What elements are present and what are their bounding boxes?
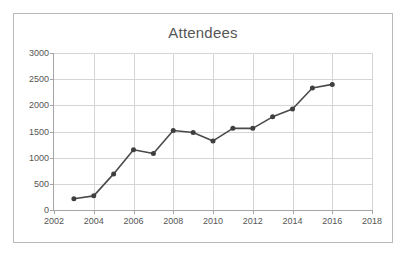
x-axis-tick-mark: [94, 210, 95, 214]
x-axis-tick-mark: [332, 210, 333, 214]
x-axis-tick-mark: [253, 210, 254, 214]
x-axis-tick-label: 2014: [282, 216, 302, 226]
x-axis-tick-mark: [173, 210, 174, 214]
data-point-marker: [250, 126, 255, 131]
data-point-marker: [310, 86, 315, 91]
x-axis-tick-mark: [54, 210, 55, 214]
data-point-marker: [171, 128, 176, 133]
data-point-marker: [211, 138, 216, 143]
y-axis-tick-label: 1000: [29, 153, 49, 163]
x-axis-tick-mark: [372, 210, 373, 214]
series-line: [74, 84, 332, 198]
x-axis-tick-mark: [293, 210, 294, 214]
x-axis-tick-label: 2006: [123, 216, 143, 226]
y-axis-tick-label: 3000: [29, 48, 49, 58]
data-point-marker: [131, 147, 136, 152]
chart-container: Attendees 050010001500200025003000 20022…: [13, 13, 393, 243]
data-series-attendees: [54, 53, 372, 210]
x-axis-tick-label: 2002: [44, 216, 64, 226]
x-axis-tick-label: 2010: [203, 216, 223, 226]
data-point-marker: [151, 151, 156, 156]
x-axis-tick-label: 2012: [243, 216, 263, 226]
chart-title: Attendees: [14, 24, 392, 41]
x-axis-tick-mark: [134, 210, 135, 214]
data-point-marker: [91, 193, 96, 198]
data-point-marker: [270, 114, 275, 119]
x-axis-tick-label: 2016: [322, 216, 342, 226]
y-axis-tick-label: 2500: [29, 74, 49, 84]
data-point-marker: [230, 126, 235, 131]
data-point-marker: [191, 130, 196, 135]
data-point-marker: [71, 196, 76, 201]
gridline-vertical: [372, 53, 373, 210]
data-point-marker: [330, 82, 335, 87]
plot-area: 050010001500200025003000 200220042006200…: [53, 53, 372, 211]
x-axis-tick-label: 2004: [84, 216, 104, 226]
y-axis-tick-label: 1500: [29, 127, 49, 137]
y-axis-tick-label: 0: [44, 205, 49, 215]
y-axis-tick-label: 500: [34, 179, 49, 189]
x-axis-tick-label: 2008: [163, 216, 183, 226]
data-point-marker: [290, 107, 295, 112]
data-point-marker: [111, 171, 116, 176]
y-axis-tick-label: 2000: [29, 100, 49, 110]
x-axis-tick-label: 2018: [362, 216, 382, 226]
x-axis-tick-mark: [213, 210, 214, 214]
